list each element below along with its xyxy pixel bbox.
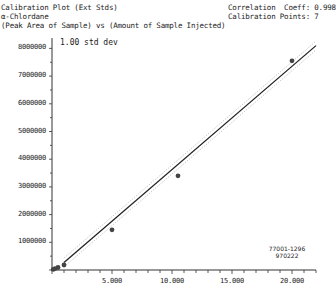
data-point bbox=[290, 58, 295, 63]
data-point bbox=[62, 263, 67, 268]
std-dev-band bbox=[64, 41, 316, 258]
data-point bbox=[110, 227, 115, 232]
std-dev-band bbox=[64, 50, 316, 267]
data-point bbox=[176, 173, 181, 178]
regression-line bbox=[64, 46, 316, 263]
data-point bbox=[56, 265, 61, 270]
